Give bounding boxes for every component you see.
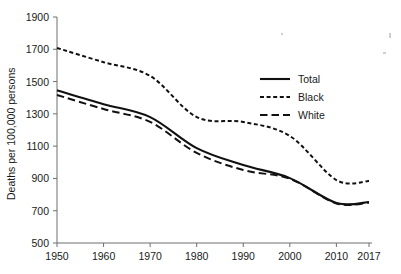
x-tick-group: 19501960197019801990200020102017: [45, 243, 381, 262]
legend-label-white: White: [298, 109, 325, 121]
x-tick-label: 1990: [232, 250, 256, 262]
y-tick-label: 500: [31, 237, 49, 249]
scan-speck: [281, 33, 283, 35]
line-chart: Deaths per 100,000 persons 5007009001100…: [0, 0, 401, 274]
y-tick-label: 1700: [26, 43, 50, 55]
scan-speck: [383, 52, 386, 54]
x-tick-label: 1950: [45, 250, 69, 262]
y-axis-label: Deaths per 100,000 persons: [5, 67, 17, 200]
legend-label-black: Black: [298, 91, 324, 103]
y-tick-label: 900: [31, 172, 49, 184]
scan-speck: [389, 33, 391, 38]
x-tick-label: 2017: [357, 250, 381, 262]
y-tick-label: 700: [31, 205, 49, 217]
y-tick-group: 50070090011001300150017001900: [26, 11, 57, 249]
x-tick-label: 2010: [325, 250, 349, 262]
x-tick-label: 2000: [278, 250, 302, 262]
x-tick-label: 1970: [138, 250, 162, 262]
series-line-total: [57, 90, 369, 204]
x-tick-label: 1960: [92, 250, 116, 262]
chart-legend: TotalBlackWhite: [260, 73, 325, 121]
y-tick-label: 1100: [26, 140, 49, 152]
y-tick-label: 1300: [26, 108, 50, 120]
legend-label-total: Total: [298, 73, 320, 85]
y-tick-label: 1500: [26, 76, 50, 88]
x-tick-label: 1980: [185, 250, 209, 262]
y-tick-label: 1900: [26, 11, 50, 23]
plot-series-group: [57, 48, 369, 205]
chart-figure: Deaths per 100,000 persons 5007009001100…: [0, 0, 401, 274]
